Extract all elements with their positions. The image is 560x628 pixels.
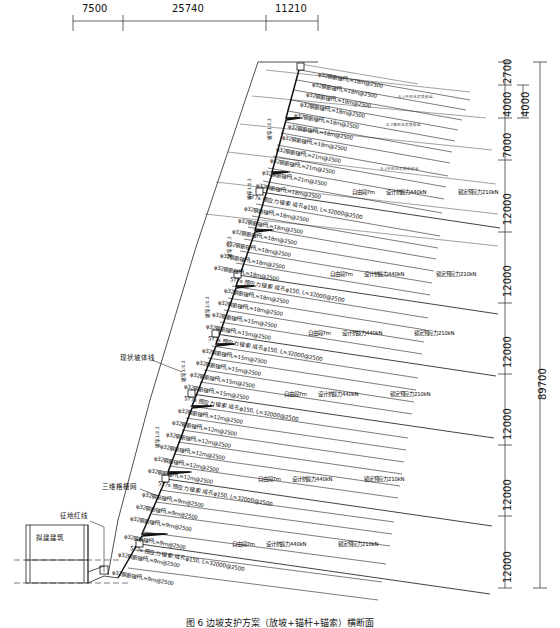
soil-layer-label-1: ②-2强风化泥质砂岩 <box>386 124 421 128</box>
right-dim-6: 12000 <box>503 336 513 368</box>
cable-lock-force-label-1: 锁定预应力210kN <box>436 272 476 277</box>
top-dim-2: 25740 <box>172 4 204 14</box>
red-line-label: 征地红线 <box>60 513 88 520</box>
cable-design-force-label-2: 设计抗拔力440kN <box>342 331 382 336</box>
cable-lock-force-label-3: 锁定预应力210kN <box>390 392 430 397</box>
cable-lock-force-label-2: 锁定预应力210kN <box>414 331 454 336</box>
cable-free-length-label-3: 自由段7m <box>284 392 307 397</box>
cable-design-force-label-3: 设计抗拔力440kN <box>318 392 358 397</box>
soil-layer-label-2: ③-1中风化泥质粉砂岩 <box>380 168 419 172</box>
slope-rate-label-1: 坡率1:0.3 <box>248 178 253 200</box>
top-dim-1: 7500 <box>82 4 107 14</box>
soil-layer-label-0: ②-1中风化泥质砂岩 <box>398 96 433 100</box>
overall-dim-89700: 89700 <box>538 368 548 400</box>
right-dim-2: 4000 <box>503 92 513 117</box>
cable-free-length-label-0: 自由段7m <box>352 190 375 195</box>
slope-rate-label-5: 坡率1:0.3 <box>156 426 161 448</box>
geogrid-label: 三维格栅网 <box>102 484 137 491</box>
top-dimension-line <box>73 15 318 31</box>
building-label: 拟建建筑 <box>36 535 64 542</box>
cable-design-force-label-4: 设计抗拔力440kN <box>292 477 332 482</box>
right-dim-3: 7000 <box>503 133 513 158</box>
slope-rate-label-2: 坡率1:0.3 <box>228 236 233 258</box>
cable-lock-force-label-5: 锁定预应力210kN <box>338 542 378 547</box>
cable-design-force-label-5: 设计抗拔力440kN <box>266 542 306 547</box>
right-dim-5: 12000 <box>503 265 513 297</box>
cable-free-length-label-5: 自由段7m <box>232 542 255 547</box>
cable-free-length-label-4: 自由段7m <box>258 477 281 482</box>
figure-caption: 图 6 边坡支护方案（放坡+锚杆+锚索）横断面 <box>0 616 560 628</box>
right-dim-9: 12000 <box>503 551 513 583</box>
overall-dimension-line <box>533 62 547 588</box>
cable-free-length-label-2: 自由段7m <box>308 331 331 336</box>
cable-free-length-label-1: 自由段7m <box>330 272 353 277</box>
slope-rate-label-0: 坡率1:0.3 <box>268 118 273 140</box>
right-dim-7: 12000 <box>503 408 513 440</box>
secondary-dim-4000: 4000 <box>521 92 531 117</box>
right-dim-4: 12000 <box>503 193 513 225</box>
drawing-sheet: 7500 25740 11210 2700 4000 7000 12000 12… <box>0 0 560 628</box>
cable-design-force-label-0: 设计抗拔力440kN <box>386 190 426 195</box>
anchor-head-markers <box>100 63 304 574</box>
existing-slope-leader <box>152 360 182 372</box>
cable-design-force-label-1: 设计抗拔力440kN <box>364 272 404 277</box>
red-line-leader <box>90 521 104 572</box>
right-dim-1: 2700 <box>503 59 513 84</box>
cable-lock-force-label-0: 锁定预应力210kN <box>458 190 498 195</box>
top-dim-3: 11210 <box>275 4 307 14</box>
cable-lock-force-label-4: 锁定预应力210kN <box>364 477 404 482</box>
slope-rate-label-3: 坡率1:0.3 <box>206 296 211 318</box>
slope-rate-label-4: 坡率1:0.3 <box>182 360 187 382</box>
existing-slope-label: 现状坡体线 <box>120 355 155 362</box>
right-dim-8: 12000 <box>503 479 513 511</box>
